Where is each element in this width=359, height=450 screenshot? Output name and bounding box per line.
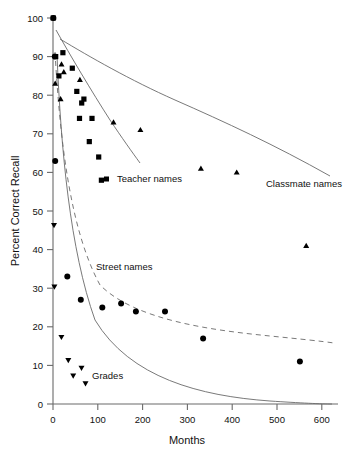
- data-point-circle: [50, 15, 56, 21]
- data-point-square: [56, 73, 61, 78]
- data-point-square: [89, 116, 94, 121]
- data-point-square: [60, 50, 65, 55]
- y-tick-label: 40: [32, 244, 43, 255]
- data-point-circle: [52, 158, 58, 164]
- x-tick-label: 300: [179, 414, 195, 425]
- data-point-circle: [297, 359, 303, 365]
- y-tick-label: 100: [27, 13, 43, 24]
- data-point-square: [70, 66, 75, 71]
- x-tick-label: 600: [314, 414, 330, 425]
- teacher-names-label: Teacher names: [117, 173, 182, 184]
- data-point-square: [81, 97, 86, 102]
- data-point-square: [74, 89, 79, 94]
- y-tick-label: 90: [32, 51, 43, 62]
- x-axis-title: Months: [169, 434, 206, 446]
- data-point-circle: [52, 54, 58, 60]
- data-point-circle: [162, 308, 168, 314]
- street-names-label: Street names: [96, 261, 153, 272]
- x-tick-label: 500: [269, 414, 285, 425]
- y-axis-title: Percent Correct Recall: [9, 156, 21, 267]
- y-tick-label: 80: [32, 90, 43, 101]
- y-tick-label: 70: [32, 128, 43, 139]
- data-point-circle: [200, 335, 206, 341]
- classmate-names-label: Classmate names: [266, 178, 342, 189]
- data-point-square: [77, 116, 82, 121]
- data-point-circle: [118, 301, 124, 307]
- y-tick-label: 0: [38, 399, 43, 410]
- data-point-circle: [133, 308, 139, 314]
- x-tick-label: 200: [135, 414, 151, 425]
- y-tick-label: 30: [32, 283, 43, 294]
- data-point-square: [96, 154, 101, 159]
- data-point-circle: [78, 297, 84, 303]
- x-tick-label: 400: [224, 414, 240, 425]
- y-tick-label: 20: [32, 321, 43, 332]
- y-tick-label: 60: [32, 167, 43, 178]
- teacher-names-legend-marker: [104, 177, 109, 182]
- y-tick-label: 50: [32, 206, 43, 217]
- data-point-square: [99, 178, 104, 183]
- data-point-circle: [64, 274, 70, 280]
- data-point-circle: [99, 305, 105, 311]
- y-tick-label: 10: [32, 360, 43, 371]
- recall-decay-scatter-chart: 100 90 80 70 60 50 40 30 20 10 0 0 100 2…: [0, 0, 359, 450]
- chart-container: 100 90 80 70 60 50 40 30 20 10 0 0 100 2…: [0, 0, 359, 450]
- grades-label: Grades: [92, 370, 123, 381]
- data-point-square: [87, 139, 92, 144]
- x-tick-label: 100: [90, 414, 106, 425]
- x-tick-label: 0: [50, 414, 55, 425]
